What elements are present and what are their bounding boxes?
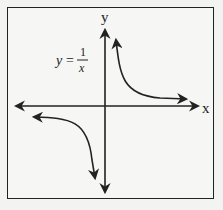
equation-equals: = [66,53,74,68]
curve-branch-q3 [34,117,95,178]
equation-lhs: y [54,53,63,68]
graph-canvas: y x y = 1 x [0,0,223,210]
y-axis-label: y [101,9,109,25]
equation-denominator: x [78,61,85,75]
x-axis-label: x [202,100,210,116]
equation-numerator: 1 [80,45,86,59]
curve-branch-q1 [116,40,186,99]
